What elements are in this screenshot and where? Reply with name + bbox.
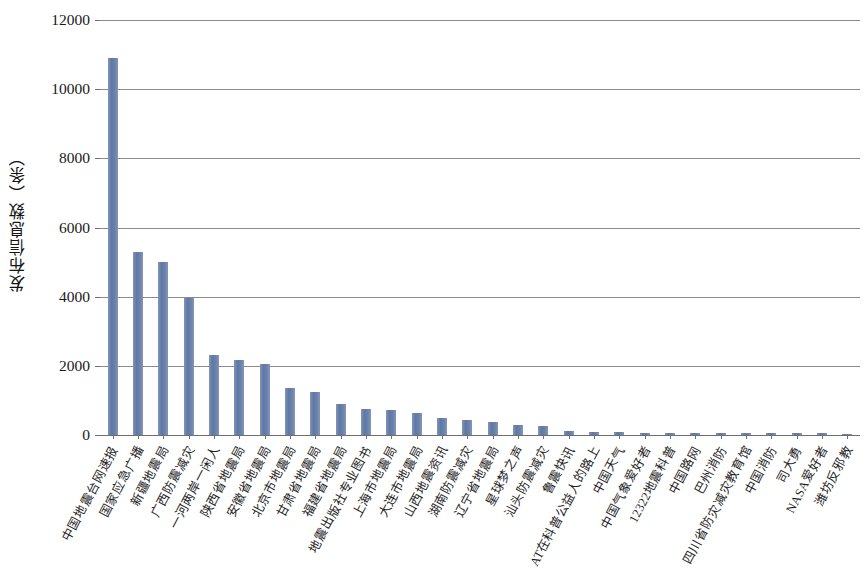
y-tick-label: 12000 [28,12,90,28]
bar [513,425,523,435]
bar [386,410,396,435]
x-tick-mark [417,435,418,439]
y-tick-label: 4000 [28,289,90,305]
bar [488,422,498,435]
x-tick-mark [493,435,494,439]
x-tick-mark [391,435,392,439]
x-tick-mark [670,435,671,439]
y-tick-label: 6000 [28,220,90,236]
bar [184,298,194,435]
x-tick-mark [341,435,342,439]
bar [462,420,472,435]
x-tick-mark [138,435,139,439]
x-tick-mark [594,435,595,439]
bar-chart: 发布信息数（条） 120001000080006000400020000 中国地… [0,0,868,584]
x-axis-tick-labels: 中国地震台网速报国家应急广播新疆地震局广西防震减灾一河两岸一闲人陕西省地震局安徽… [0,440,868,584]
x-tick-mark [239,435,240,439]
x-tick-mark [315,435,316,439]
x-tick-mark [847,435,848,439]
x-tick-mark [113,435,114,439]
x-tick-mark [214,435,215,439]
bar [412,413,422,435]
bar [209,355,219,435]
bar [234,360,244,435]
x-tick-mark [442,435,443,439]
bar [260,364,270,435]
y-tick-label: 2000 [28,358,90,374]
bar [310,392,320,435]
x-tick-mark [746,435,747,439]
bars-layer [100,20,860,435]
x-tick-mark [189,435,190,439]
x-tick-mark [569,435,570,439]
x-tick-mark [163,435,164,439]
x-tick-mark [518,435,519,439]
x-tick-mark [265,435,266,439]
x-tick-mark [543,435,544,439]
x-tick-mark [467,435,468,439]
bar [361,409,371,435]
bar [133,252,143,435]
x-tick-mark [645,435,646,439]
bar [158,262,168,435]
x-tick-mark [366,435,367,439]
y-axis-tick-labels: 120001000080006000400020000 [28,0,90,440]
x-tick-mark [619,435,620,439]
x-tick-mark [290,435,291,439]
x-tick-mark [771,435,772,439]
plot-area [100,20,860,435]
bar [108,58,118,435]
bar [285,388,295,435]
x-tick-mark [695,435,696,439]
bar [437,418,447,435]
x-tick-mark [721,435,722,439]
bar [538,426,548,435]
y-tick-label: 8000 [28,151,90,167]
y-tick-label: 10000 [28,81,90,97]
x-tick-mark [822,435,823,439]
x-tick-mark [797,435,798,439]
bar [336,404,346,435]
